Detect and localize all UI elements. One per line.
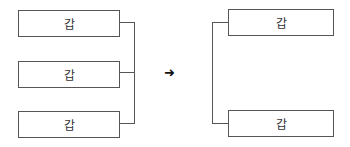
right-connector-1 (212, 22, 229, 23)
right-box-1: 갑 (228, 9, 334, 36)
right-box-2: 갑 (228, 110, 334, 137)
left-connector-3 (120, 123, 135, 124)
left-box-1-label: 갑 (64, 15, 75, 32)
right-box-2-label: 갑 (276, 115, 287, 132)
left-box-2-label: 갑 (64, 66, 75, 83)
right-bracket-vertical (212, 22, 213, 123)
left-box-3: 갑 (18, 111, 120, 138)
left-connector-2 (120, 72, 135, 73)
left-box-3-label: 갑 (64, 116, 75, 133)
left-box-1: 갑 (18, 10, 120, 37)
left-box-2: 갑 (18, 61, 120, 88)
left-connector-1 (120, 22, 135, 23)
right-box-1-label: 갑 (276, 14, 287, 31)
arrow-right-icon: ➜ (164, 66, 175, 79)
right-connector-2 (212, 123, 229, 124)
left-bracket-vertical (134, 22, 135, 124)
